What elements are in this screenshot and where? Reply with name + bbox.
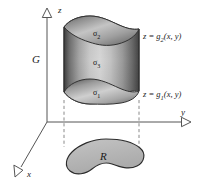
figure-container: z y x G R σ2 σ3 σ1 z = g2(x, y) z = g1(x… (0, 0, 204, 188)
z-axis-label: z (58, 6, 62, 15)
solid-G (64, 16, 139, 104)
equation-top-lhs: z = g (143, 31, 161, 41)
equation-bottom-lhs: z = g (143, 89, 161, 99)
surface-label-sigma1: σ1 (93, 89, 100, 99)
equation-top-surface: z = g2(x, y) (143, 32, 181, 43)
y-axis-label: y (181, 108, 185, 117)
surface-label-sigma3: σ3 (93, 59, 100, 69)
sigma2-subscript: 2 (97, 34, 100, 40)
x-axis-label: x (27, 170, 31, 179)
equation-top-rhs: (x, y) (164, 31, 181, 41)
equation-bottom-surface: z = g1(x, y) (143, 90, 181, 101)
surface-label-sigma2: σ2 (93, 30, 100, 40)
solid-label-G: G (32, 54, 40, 65)
z-axis-arrowhead (42, 8, 51, 18)
y-axis-arrowhead (182, 117, 192, 126)
region-label-R: R (100, 151, 107, 162)
equation-bottom-rhs: (x, y) (164, 89, 181, 99)
sigma1-subscript: 1 (97, 93, 100, 99)
sigma3-subscript: 3 (97, 63, 100, 69)
x-axis-line (21, 122, 47, 167)
